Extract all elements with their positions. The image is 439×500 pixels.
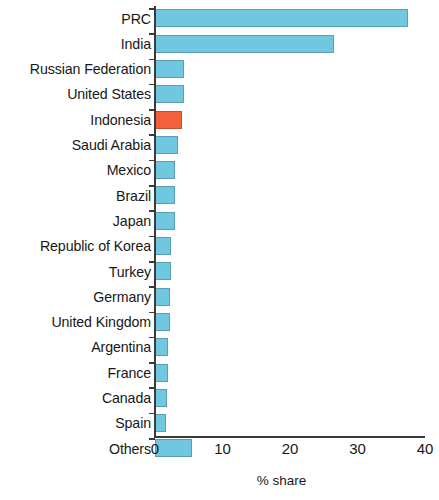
category-label: Indonesia — [0, 113, 151, 127]
bar — [155, 338, 168, 356]
bar — [155, 85, 184, 103]
bar — [155, 389, 167, 407]
bar-track — [155, 284, 439, 309]
bar-row: Indonesia — [0, 107, 439, 132]
bar-row: Russian Federation — [0, 57, 439, 82]
bar-track — [155, 82, 439, 107]
x-axis-tick-label: 30 — [349, 441, 366, 456]
bar — [155, 212, 175, 230]
bar-track — [155, 183, 439, 208]
bar-rows: PRCIndiaRussian FederationUnited StatesI… — [0, 6, 439, 461]
category-label: France — [0, 366, 151, 380]
category-label: India — [0, 37, 151, 51]
category-label: Argentina — [0, 340, 151, 354]
bar-track — [155, 259, 439, 284]
bar-track — [155, 6, 439, 31]
bar-track — [155, 335, 439, 360]
x-axis-tick-labels: 010203040 — [0, 441, 439, 465]
x-axis-tick-label: 20 — [282, 441, 299, 456]
x-axis-tick-label: 0 — [151, 441, 159, 456]
y-axis-line — [154, 6, 156, 436]
bar-row: Japan — [0, 208, 439, 233]
bar-track — [155, 310, 439, 335]
category-label: United Kingdom — [0, 315, 151, 329]
bar-row: Argentina — [0, 335, 439, 360]
bar-track — [155, 234, 439, 259]
bar-row: Spain — [0, 411, 439, 436]
bar — [155, 186, 175, 204]
bar-track — [155, 132, 439, 157]
bar-track — [155, 57, 439, 82]
category-label: Saudi Arabia — [0, 138, 151, 152]
category-label: United States — [0, 87, 151, 101]
bar-chart: PRCIndiaRussian FederationUnited StatesI… — [0, 0, 439, 500]
category-label: Germany — [0, 290, 151, 304]
x-axis-tick-label: 40 — [417, 441, 434, 456]
bar — [155, 60, 184, 78]
bar — [155, 237, 171, 255]
x-axis-tick-label: 10 — [214, 441, 231, 456]
bar-row: Republic of Korea — [0, 234, 439, 259]
bar-row: India — [0, 31, 439, 56]
bar — [155, 161, 175, 179]
bar — [155, 364, 168, 382]
bar — [155, 414, 166, 432]
bar-track — [155, 31, 439, 56]
category-label: Mexico — [0, 163, 151, 177]
bar-track — [155, 208, 439, 233]
bar-track — [155, 411, 439, 436]
x-axis-title: % share — [0, 474, 439, 488]
bar-row: Saudi Arabia — [0, 132, 439, 157]
bar-row: United Kingdom — [0, 310, 439, 335]
bar-track — [155, 107, 439, 132]
category-label: Brazil — [0, 189, 151, 203]
bar — [155, 262, 171, 280]
bar-row: Mexico — [0, 158, 439, 183]
bar-track — [155, 385, 439, 410]
plot-area: PRCIndiaRussian FederationUnited StatesI… — [0, 0, 439, 440]
bar — [155, 136, 178, 154]
category-label: Turkey — [0, 265, 151, 279]
bar-row: Canada — [0, 385, 439, 410]
bar-row: Germany — [0, 284, 439, 309]
bar-row: PRC — [0, 6, 439, 31]
bar — [155, 288, 170, 306]
category-label: PRC — [0, 12, 151, 26]
bar-row: Turkey — [0, 259, 439, 284]
bar — [155, 111, 182, 129]
bar-row: Brazil — [0, 183, 439, 208]
category-label: Canada — [0, 391, 151, 405]
bar-row: United States — [0, 82, 439, 107]
category-label: Russian Federation — [0, 62, 151, 76]
x-axis-line — [154, 436, 425, 438]
category-label: Republic of Korea — [0, 239, 151, 253]
bar — [155, 35, 334, 53]
bar — [155, 9, 408, 27]
bar — [155, 313, 170, 331]
bar-row: France — [0, 360, 439, 385]
bar-track — [155, 158, 439, 183]
bar-track — [155, 360, 439, 385]
category-label: Spain — [0, 416, 151, 430]
category-label: Japan — [0, 214, 151, 228]
